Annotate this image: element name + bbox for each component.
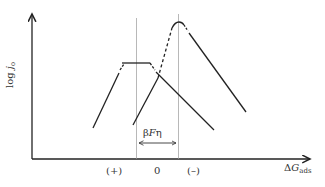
x-axis-label: ΔGads — [284, 162, 311, 175]
tick-label-plus: (+) — [106, 165, 122, 176]
tick-label-zero: 0 — [154, 165, 160, 176]
volcano-curve-2 — [133, 22, 246, 125]
volcano-curve-1 — [93, 63, 214, 130]
tick-label-minus: (–) — [187, 165, 200, 176]
volcano-diagram — [0, 0, 325, 187]
shift-label: βFη — [143, 127, 162, 138]
y-axis-label: log jo — [4, 62, 17, 88]
